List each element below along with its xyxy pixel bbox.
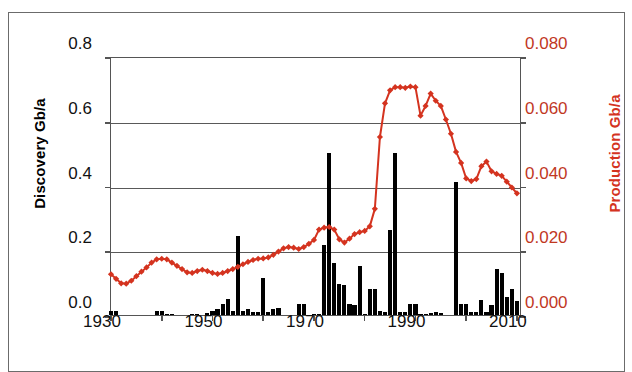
data-point-marker [255, 256, 261, 262]
y-right-tick-label: 0.040 [525, 164, 589, 184]
data-point-marker [397, 84, 403, 90]
production-line [111, 58, 522, 317]
y-left-tick-label: 0.2 [36, 228, 92, 248]
data-point-marker [443, 116, 449, 122]
y-left-tick-label: 0.6 [36, 99, 92, 119]
data-point-marker [372, 206, 378, 212]
data-point-marker [357, 229, 363, 235]
data-point-marker [412, 84, 418, 90]
y-axis-right-title: Production Gb/a [606, 54, 623, 254]
data-point-marker [382, 100, 388, 106]
data-point-marker [458, 160, 464, 166]
x-tick-label: 1950 [168, 312, 238, 332]
data-point-marker [209, 270, 215, 276]
data-point-marker [194, 268, 200, 274]
plot-area [110, 57, 521, 316]
data-point-marker [321, 225, 327, 231]
data-point-marker [250, 257, 256, 263]
production-polyline [111, 86, 517, 283]
y-axis-left-title: Discovery Gb/a [31, 54, 48, 254]
y-right-tick-label: 0.060 [525, 99, 589, 119]
data-point-marker [377, 134, 383, 140]
data-point-marker [285, 244, 291, 250]
data-point-marker [291, 245, 297, 251]
data-point-marker [220, 270, 226, 276]
data-point-marker [407, 83, 413, 89]
x-tick-label: 1970 [270, 312, 340, 332]
data-point-marker [189, 270, 195, 276]
data-point-marker [473, 176, 479, 182]
data-point-marker [296, 246, 302, 252]
figure-frame: Discovery Gb/a Production Gb/a 0.00.0000… [8, 12, 625, 372]
data-point-marker [214, 271, 220, 277]
data-point-marker [199, 267, 205, 273]
y-right-tick-label: 0.080 [525, 34, 589, 54]
data-point-marker [159, 256, 165, 262]
y-left-tick-label: 0.4 [36, 164, 92, 184]
y-right-tick-label: 0.020 [525, 228, 589, 248]
data-point-marker [260, 255, 266, 261]
data-point-marker [448, 131, 454, 137]
x-tick-label: 1930 [67, 312, 137, 332]
data-point-marker [225, 268, 231, 274]
data-point-marker [204, 268, 210, 274]
y-left-tick-label: 0.0 [36, 293, 92, 313]
data-point-marker [453, 149, 459, 155]
y-left-tick-label: 0.8 [36, 34, 92, 54]
x-tick-label: 2010 [473, 312, 543, 332]
y-right-tick-label: 0.000 [525, 293, 589, 313]
data-point-marker [402, 85, 408, 91]
x-tick-label: 1990 [371, 312, 441, 332]
